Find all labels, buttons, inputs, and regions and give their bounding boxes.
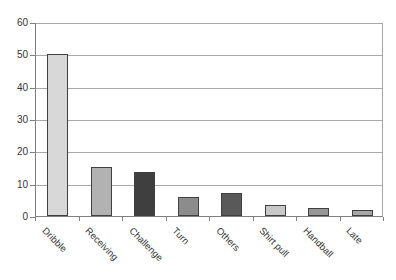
y-axis-tick <box>30 185 35 186</box>
x-axis-tick <box>296 217 297 221</box>
x-axis-tick <box>79 217 80 221</box>
bar-late <box>352 210 373 216</box>
x-axis-category-label: Challenge <box>127 225 165 263</box>
bar-challenge <box>134 172 155 216</box>
gridline-10 <box>36 185 382 186</box>
y-axis-tick <box>30 152 35 153</box>
x-axis-tick <box>383 217 384 221</box>
bar-handball <box>308 208 329 216</box>
x-axis-category-label: Receiving <box>83 225 120 262</box>
y-axis-tick-label: 40 <box>2 82 28 94</box>
bar-turn <box>178 197 199 216</box>
y-axis-tick-label: 0 <box>2 211 28 223</box>
x-axis-category-label: Others <box>214 225 242 253</box>
y-axis-tick <box>30 120 35 121</box>
x-axis-category-label: Turn <box>170 225 191 246</box>
gridline-40 <box>36 88 382 89</box>
x-axis-category-label: Handball <box>301 225 335 259</box>
x-axis-tick <box>35 217 36 221</box>
x-axis-tick <box>122 217 123 221</box>
y-axis-tick-label: 20 <box>2 146 28 158</box>
y-axis-tick-label: 50 <box>2 49 28 61</box>
y-axis-tick <box>30 23 35 24</box>
bar-shirt-pull <box>265 205 286 216</box>
x-axis-tick <box>209 217 210 221</box>
y-axis-tick-label: 60 <box>2 17 28 29</box>
gridline-50 <box>36 55 382 56</box>
y-axis-tick <box>30 88 35 89</box>
x-axis-tick <box>253 217 254 221</box>
x-axis-tick <box>166 217 167 221</box>
x-axis-category-label: Shirt pull <box>257 225 291 259</box>
x-axis-category-label: Late <box>344 225 365 246</box>
y-axis-tick-label: 30 <box>2 114 28 126</box>
plot-area <box>35 23 383 217</box>
y-axis-tick <box>30 55 35 56</box>
bar-others <box>221 193 242 216</box>
gridline-30 <box>36 120 382 121</box>
gridline-60 <box>36 23 382 24</box>
x-axis-category-label: Dribble <box>40 225 69 254</box>
bar-dribble <box>47 54 68 216</box>
bar-chart: 0102030405060 DribbleReceivingChallengeT… <box>0 0 396 280</box>
y-axis-tick-label: 10 <box>2 179 28 191</box>
gridline-20 <box>36 152 382 153</box>
x-axis-tick <box>340 217 341 221</box>
bar-receiving <box>91 167 112 216</box>
